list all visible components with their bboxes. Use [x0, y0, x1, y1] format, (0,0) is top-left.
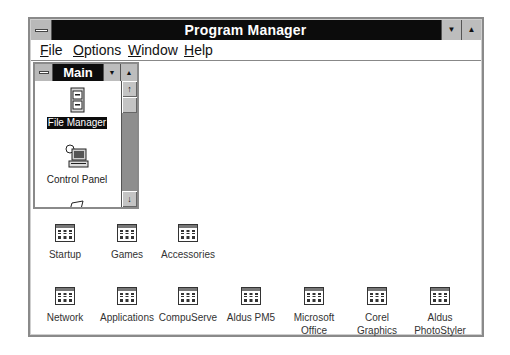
program-item-label: File Manager: [47, 117, 107, 129]
group-icon-label: Startup: [49, 249, 81, 260]
group-icon-label: Network: [47, 312, 84, 323]
group-icon-label-line2: Graphics: [357, 325, 397, 336]
maximize-button[interactable]: ▲: [461, 20, 481, 40]
group-icon-label: Accessories: [161, 249, 215, 260]
group-icon-startup[interactable]: Startup: [30, 224, 100, 261]
menu-window-accel: W: [128, 42, 141, 58]
program-group-icon: [117, 287, 137, 305]
group-icon-label: Aldus PM5: [227, 312, 275, 323]
menu-help[interactable]: Help: [184, 41, 213, 59]
minimize-button[interactable]: ▼: [441, 20, 461, 40]
group-minimize-icon: ▼: [109, 69, 116, 76]
group-icon-aldus-photostyler[interactable]: Aldus PhotoStyler: [405, 287, 475, 337]
menu-file[interactable]: File: [40, 41, 63, 59]
window-title: Program Manager: [52, 20, 439, 40]
group-icon-compuserve[interactable]: CompuServe: [153, 287, 223, 324]
program-group-icon: [55, 287, 75, 305]
scroll-down-button[interactable]: ↓: [122, 191, 137, 207]
maximize-icon: ▲: [468, 25, 476, 34]
program-group-icon: [367, 287, 387, 305]
group-icon-accessories[interactable]: Accessories: [153, 224, 223, 261]
group-icon-applications[interactable]: Applications: [92, 287, 162, 324]
control-panel-icon: [61, 143, 93, 171]
vertical-scrollbar[interactable]: ↑ ↓: [121, 81, 137, 207]
system-menu-button[interactable]: [31, 20, 52, 40]
main-group-window: Main ▼ ▲ File Manager: [33, 62, 139, 209]
main-group-content: File Manager Control Panel: [35, 81, 121, 207]
group-minimize-button[interactable]: ▼: [103, 64, 120, 81]
group-system-menu-button[interactable]: [35, 64, 53, 81]
group-system-menu-icon: [39, 71, 49, 74]
group-icon-aldus-pm5[interactable]: Aldus PM5: [216, 287, 286, 324]
system-menu-icon: [35, 29, 48, 32]
program-group-icon: [430, 287, 450, 305]
scroll-up-button[interactable]: ↑: [122, 81, 137, 97]
menu-window[interactable]: Window: [128, 41, 178, 59]
main-group-title-bar[interactable]: Main ▼ ▲: [35, 64, 137, 81]
menu-options-label: ptions: [84, 42, 121, 58]
program-group-icon: [117, 224, 137, 242]
program-group-icon: [178, 224, 198, 242]
program-item-file-manager[interactable]: File Manager: [39, 86, 115, 129]
menu-bar: File Options Window Help: [31, 40, 481, 61]
menu-options[interactable]: Options: [73, 41, 121, 59]
program-group-icon: [241, 287, 261, 305]
group-icon-label-line1: Aldus: [427, 312, 452, 323]
menu-window-label: indow: [141, 42, 178, 58]
menu-options-accel: O: [73, 42, 84, 58]
group-icon-network[interactable]: Network: [30, 287, 100, 324]
title-bar[interactable]: Program Manager ▼ ▲: [31, 20, 481, 40]
program-item-print-manager[interactable]: [39, 197, 115, 207]
group-icon-label: CompuServe: [159, 312, 217, 323]
workspace: Main ▼ ▲ File Manager: [31, 61, 481, 334]
file-cabinet-icon: [61, 86, 93, 114]
group-icon-label-line2: PhotoStyler: [414, 325, 466, 336]
menu-file-label: ile: [49, 42, 63, 58]
program-manager-window: Program Manager ▼ ▲ File Options Window …: [28, 17, 484, 337]
program-group-icon: [178, 287, 198, 305]
minimize-icon: ▼: [448, 25, 456, 34]
program-item-control-panel[interactable]: Control Panel: [39, 143, 115, 186]
menu-file-accel: F: [40, 42, 49, 58]
program-group-icon: [304, 287, 324, 305]
group-icon-corel-graphics[interactable]: Corel Graphics: [342, 287, 412, 337]
group-icon-label-line2: Office: [301, 325, 327, 336]
group-title: Main: [53, 64, 103, 81]
arrow-down-icon: ↓: [127, 194, 132, 204]
group-icon-games[interactable]: Games: [92, 224, 162, 261]
program-group-icon: [55, 224, 75, 242]
program-item-label: Control Panel: [46, 174, 109, 186]
group-icon-label: Applications: [100, 312, 154, 323]
group-maximize-button[interactable]: ▲: [120, 64, 137, 81]
arrow-up-icon: ↑: [127, 84, 132, 94]
group-icon-label-line1: Microsoft: [294, 312, 335, 323]
group-maximize-icon: ▲: [126, 69, 133, 76]
group-icon-microsoft-office[interactable]: Microsoft Office: [279, 287, 349, 337]
scroll-thumb[interactable]: [122, 97, 137, 113]
menu-help-label: elp: [194, 42, 213, 58]
group-icon-label-line1: Corel: [365, 312, 389, 323]
group-icon-label: Games: [111, 249, 143, 260]
menu-help-accel: H: [184, 42, 194, 58]
print-manager-icon: [61, 197, 93, 207]
